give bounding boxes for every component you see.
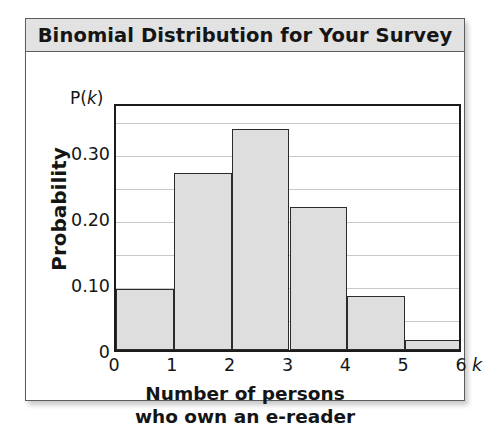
x-tick-label: 5: [398, 355, 409, 375]
bar: [290, 207, 348, 350]
y-tick-label: 0.30: [48, 144, 110, 164]
caption-line-2: who own an e-reader: [26, 405, 464, 428]
x-tick-label: 1: [166, 355, 177, 375]
bar: [405, 340, 459, 350]
x-tick-label: 3: [282, 355, 293, 375]
bar: [232, 129, 290, 350]
x-tick-label: 4: [340, 355, 351, 375]
chart-figure: Probability P(k) 00.100.200.30 0123456 k…: [26, 52, 464, 402]
x-tick-label: 0: [108, 355, 119, 375]
chart-caption: Number of persons who own an e-reader: [26, 382, 464, 428]
bar: [347, 296, 405, 350]
figure-stage: Binomial Distribution for Your Survey Pr…: [0, 0, 486, 428]
gridline: [116, 123, 459, 124]
y-tick-label: 0.20: [48, 210, 110, 230]
bar: [116, 289, 174, 351]
plot-inner: [116, 106, 459, 350]
y-tick-label: 0.10: [48, 276, 110, 296]
x-tick-label: 6: [455, 355, 466, 375]
chart-title: Binomial Distribution for Your Survey: [26, 19, 464, 52]
bar: [174, 173, 232, 350]
chart-card: Binomial Distribution for Your Survey Pr…: [25, 18, 465, 401]
plot-area: [114, 104, 461, 352]
y-tick-labels: 00.100.200.30: [46, 104, 110, 352]
x-axis-symbol: k: [472, 355, 482, 375]
y-tick-label: 0: [48, 342, 110, 362]
x-tick-label: 2: [224, 355, 235, 375]
caption-line-1: Number of persons: [26, 382, 464, 405]
x-tick-labels: 0123456: [114, 355, 461, 381]
